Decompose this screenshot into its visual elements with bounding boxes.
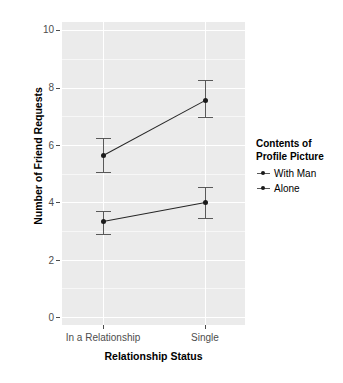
y-tick-mark-10 bbox=[56, 30, 60, 31]
y-axis-tick-labels: 10 8 6 4 2 0 bbox=[32, 0, 54, 383]
y-tick-label-6: 6 bbox=[32, 141, 54, 151]
chart-figure: Number of Friend Requests 10 8 6 4 2 0 bbox=[0, 0, 343, 383]
gridline-x-single bbox=[205, 22, 206, 325]
legend-item-with-man[interactable]: With Man bbox=[256, 166, 342, 181]
y-tick-label-8: 8 bbox=[32, 83, 54, 93]
errorbar-cap-bottom-with-man-single bbox=[198, 117, 213, 118]
legend-key-point-line-icon bbox=[256, 181, 271, 196]
gridline-minor-y-3 bbox=[62, 231, 245, 232]
gridline-y-2 bbox=[62, 260, 245, 261]
legend-item-alone[interactable]: Alone bbox=[256, 181, 342, 196]
y-tick-label-4: 4 bbox=[32, 198, 54, 208]
errorbar-cap-top-with-man-in-a-relationship bbox=[96, 138, 111, 139]
errorbar-cap-top-with-man-single bbox=[198, 80, 213, 81]
data-point-with-man-single bbox=[203, 98, 208, 103]
gridline-minor-y-1 bbox=[62, 288, 245, 289]
y-tick-mark-6 bbox=[56, 145, 60, 146]
y-tick-label-2: 2 bbox=[32, 256, 54, 266]
y-tick-mark-0 bbox=[56, 317, 60, 318]
gridline-minor-y-5 bbox=[62, 174, 245, 175]
y-tick-mark-4 bbox=[56, 202, 60, 203]
legend-title: Contents of Profile Picture bbox=[256, 138, 342, 163]
plot-panel bbox=[62, 22, 245, 325]
gridline-y-10 bbox=[62, 30, 245, 31]
legend-label-alone: Alone bbox=[274, 183, 300, 194]
gridline-y-8 bbox=[62, 88, 245, 89]
series-line-alone bbox=[103, 202, 205, 222]
errorbar-cap-top-alone-single bbox=[198, 187, 213, 188]
y-tick-mark-8 bbox=[56, 88, 60, 89]
errorbar-cap-bottom-alone-single bbox=[198, 218, 213, 219]
x-tick-label-in-a-relationship: In a Relationship bbox=[66, 332, 141, 343]
gridline-y-6 bbox=[62, 145, 245, 146]
errorbar-cap-bottom-alone-in-a-relationship bbox=[96, 234, 111, 235]
legend-title-line-2: Profile Picture bbox=[256, 151, 342, 164]
data-point-with-man-in-a-relationship bbox=[101, 153, 106, 158]
series-line-with-man bbox=[103, 100, 205, 156]
data-point-alone-single bbox=[203, 200, 208, 205]
x-axis-title: Relationship Status bbox=[62, 350, 245, 362]
x-tick-mark-in-a-relationship bbox=[103, 325, 104, 329]
legend-key-point-line-icon bbox=[256, 166, 271, 181]
legend-title-line-1: Contents of bbox=[256, 138, 342, 151]
errorbar-cap-bottom-with-man-in-a-relationship bbox=[96, 172, 111, 173]
legend: Contents of Profile Picture With Man Alo… bbox=[256, 138, 342, 196]
y-tick-label-0: 0 bbox=[32, 313, 54, 323]
y-tick-mark-2 bbox=[56, 260, 60, 261]
data-point-alone-in-a-relationship bbox=[101, 219, 106, 224]
y-tick-label-10: 10 bbox=[32, 25, 54, 35]
errorbar-cap-top-alone-in-a-relationship bbox=[96, 211, 111, 212]
x-tick-mark-single bbox=[205, 325, 206, 329]
gridline-y-0 bbox=[62, 317, 245, 318]
gridline-minor-y-9 bbox=[62, 59, 245, 60]
gridline-y-4 bbox=[62, 202, 245, 203]
gridline-minor-y-7 bbox=[62, 116, 245, 117]
gridline-x-in-a-relationship bbox=[103, 22, 104, 325]
x-tick-label-single: Single bbox=[191, 332, 219, 343]
legend-label-with-man: With Man bbox=[274, 168, 316, 179]
